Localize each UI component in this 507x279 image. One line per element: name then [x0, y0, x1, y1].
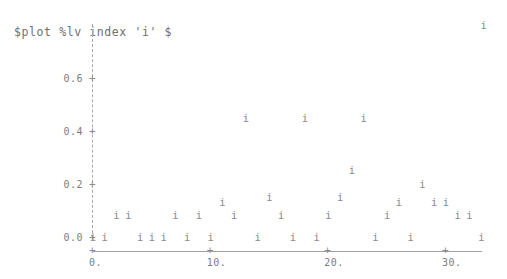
- data-point: i: [419, 178, 425, 189]
- data-point: i: [478, 231, 484, 242]
- x-axis-line: [93, 251, 482, 252]
- data-point: i: [360, 112, 366, 123]
- x-axis-tick-label: 0.: [89, 257, 102, 268]
- data-point: i: [207, 231, 213, 242]
- y-axis-tick-label: 0.6: [63, 73, 83, 84]
- data-point: i: [266, 192, 272, 203]
- data-point: i: [160, 231, 166, 242]
- data-point: i: [480, 20, 486, 31]
- plot-canvas: $plot %lv index 'i' $ 0.0+0.2+0.4+0.6+ +…: [0, 0, 507, 279]
- x-axis-tick-mark: +: [324, 244, 331, 257]
- data-point: i: [125, 210, 131, 221]
- x-axis-tick-label: 20.: [324, 257, 344, 268]
- data-point: i: [184, 231, 190, 242]
- y-axis-tick-label: 0.2: [63, 178, 83, 189]
- y-axis-tick-label: 0.4: [63, 125, 83, 136]
- data-point: i: [384, 210, 390, 221]
- data-point: i: [408, 231, 414, 242]
- data-point: i: [231, 210, 237, 221]
- data-point: i: [302, 112, 308, 123]
- y-axis-tick-mark: +: [89, 177, 96, 190]
- y-axis-tick-mark: +: [89, 124, 96, 137]
- data-point: i: [196, 210, 202, 221]
- data-point: i: [313, 231, 319, 242]
- data-point: i: [90, 231, 96, 242]
- data-point: i: [243, 112, 249, 123]
- data-point: i: [337, 192, 343, 203]
- data-point: i: [172, 210, 178, 221]
- data-point: i: [278, 210, 284, 221]
- x-axis-tick-label: 10.: [207, 257, 227, 268]
- x-axis-tick-mark: +: [442, 244, 449, 257]
- y-axis-tick-mark: +: [89, 72, 96, 85]
- data-point: i: [466, 210, 472, 221]
- data-point: i: [431, 197, 437, 208]
- data-point: i: [149, 231, 155, 242]
- x-axis-tick-mark: +: [89, 244, 96, 257]
- y-axis-tick-label: 0.0: [63, 231, 83, 242]
- data-point: i: [443, 197, 449, 208]
- data-point: i: [290, 231, 296, 242]
- data-point: i: [137, 231, 143, 242]
- data-point: i: [396, 197, 402, 208]
- data-point: i: [102, 231, 108, 242]
- data-point: i: [113, 210, 119, 221]
- data-point: i: [325, 210, 331, 221]
- data-point: i: [455, 210, 461, 221]
- data-point: i: [372, 231, 378, 242]
- plot-title: $plot %lv index 'i' $: [14, 25, 172, 39]
- data-point: i: [255, 231, 261, 242]
- data-point: i: [219, 197, 225, 208]
- x-axis-tick-mark: +: [207, 244, 214, 257]
- data-point: i: [349, 165, 355, 176]
- x-axis-tick-label: 30.: [442, 257, 462, 268]
